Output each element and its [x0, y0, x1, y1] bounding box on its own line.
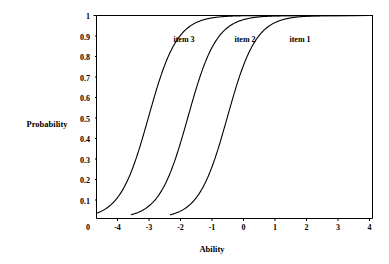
y-tick-label-0.1: 0.1: [80, 197, 90, 206]
curve-label-item-2: item 2: [234, 35, 255, 44]
curve-annotations: item 3 item 2 item 1: [173, 35, 310, 44]
y-axis-title: Probability: [27, 119, 69, 129]
x-axis-tick-labels: -4 -3 -2 -1 0 1 2 3 4: [114, 223, 371, 232]
y-tick-label-0.8: 0.8: [80, 53, 90, 62]
plot-frame: [97, 16, 373, 219]
curves-group: [97, 16, 373, 215]
y-axis-tick-labels: 1 0.9 0.8 0.7 0.6 0.5 0.4 0.3 0.2 0.1: [80, 12, 90, 206]
x-tick-label--3: -3: [146, 223, 153, 232]
item-characteristic-curves-chart: 1 0.9 0.8 0.7 0.6 0.5 0.4 0.3 0.2 0.1 0 …: [0, 0, 389, 264]
curve-item-3: [97, 16, 373, 214]
curve-item-2: [131, 16, 372, 215]
x-tick-label--1: -1: [209, 223, 216, 232]
y-tick-label-0.3: 0.3: [80, 156, 90, 165]
y-tick-label-1: 1: [86, 12, 90, 21]
x-tick-label-2: 2: [305, 223, 309, 232]
curve-item-1: [170, 16, 372, 215]
chart-figure: 1 0.9 0.8 0.7 0.6 0.5 0.4 0.3 0.2 0.1 0 …: [0, 0, 389, 264]
y-tick-label-0.5: 0.5: [80, 115, 90, 124]
y-tick-label-0.9: 0.9: [80, 33, 90, 42]
x-tick-label-3: 3: [336, 223, 340, 232]
origin-label: 0: [86, 223, 90, 232]
y-tick-label-0.7: 0.7: [80, 74, 90, 83]
y-tick-label-0.4: 0.4: [80, 135, 90, 144]
x-tick-label--4: -4: [114, 223, 121, 232]
y-tick-label-0.2: 0.2: [80, 176, 90, 185]
curve-label-item-3: item 3: [173, 35, 194, 44]
x-axis-title: Ability: [199, 244, 225, 254]
x-tick-label--2: -2: [177, 223, 184, 232]
x-tick-label-1: 1: [273, 223, 277, 232]
x-tick-label-4: 4: [368, 223, 372, 232]
x-tick-label-0: 0: [242, 223, 246, 232]
y-tick-label-0.6: 0.6: [80, 94, 90, 103]
curve-label-item-1: item 1: [289, 35, 310, 44]
